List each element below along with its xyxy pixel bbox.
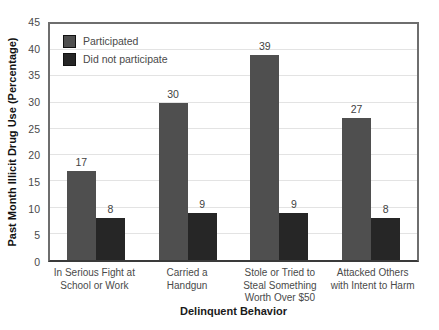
bar-did-not-participate: 8 [96, 218, 125, 260]
bar-value-label: 9 [199, 198, 205, 210]
y-tick-label: 30 [28, 96, 40, 108]
bar-participated: 27 [342, 118, 371, 260]
bar-value-label: 30 [167, 88, 179, 100]
y-tick-label: 25 [28, 123, 40, 135]
bar-value-label: 27 [351, 103, 363, 115]
legend: ParticipatedDid not participate [63, 32, 168, 68]
y-tick-label: 15 [28, 176, 40, 188]
y-tick-label: 45 [28, 16, 40, 28]
bar-value-label: 9 [291, 198, 297, 210]
bar-group: 399 [234, 24, 326, 260]
bar-value-label: 8 [383, 203, 389, 215]
legend-label: Did not participate [83, 53, 168, 65]
bar-chart-figure: Past Month Illicit Drug Use (Percentage)… [0, 0, 439, 330]
y-tick-label: 5 [34, 229, 40, 241]
category-label: Attacked Others with Intent to Harm [326, 267, 419, 305]
bar-group: 278 [325, 24, 417, 260]
y-tick-label: 20 [28, 149, 40, 161]
y-tick-label: 0 [34, 256, 40, 268]
legend-item: Participated [63, 32, 168, 50]
plot-area: 178309399278 ParticipatedDid not partici… [48, 22, 419, 262]
legend-swatch [63, 53, 76, 66]
category-label: Stole or Tried to Steal Something Worth … [234, 267, 327, 305]
y-tick-label: 40 [28, 43, 40, 55]
bar-value-label: 8 [107, 203, 113, 215]
bar-participated: 39 [250, 55, 279, 260]
category-label: In Serious Fight at School or Work [48, 267, 141, 305]
bar-participated: 30 [159, 103, 188, 260]
y-tick-label: 10 [28, 203, 40, 215]
x-axis-title: Delinquent Behavior [48, 305, 419, 317]
legend-swatch [63, 35, 76, 48]
x-axis-category-labels: In Serious Fight at School or WorkCarrie… [48, 267, 419, 305]
legend-item: Did not participate [63, 50, 168, 68]
category-label: Carried a Handgun [141, 267, 234, 305]
y-axis-ticks: 454035302520151050 [0, 22, 44, 262]
bar-did-not-participate: 8 [371, 218, 400, 260]
bar-value-label: 39 [259, 40, 271, 52]
y-tick-label: 35 [28, 69, 40, 81]
bar-participated: 17 [67, 171, 96, 260]
legend-label: Participated [83, 35, 138, 47]
bar-value-label: 17 [76, 156, 88, 168]
bar-did-not-participate: 9 [279, 213, 308, 260]
bar-did-not-participate: 9 [188, 213, 217, 260]
